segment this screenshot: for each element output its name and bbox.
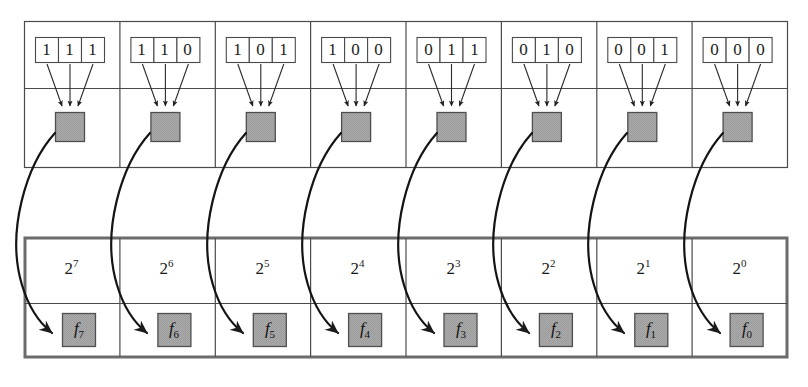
bottom-gray-nodes xyxy=(63,314,764,347)
figure-container: 1 1 1 1 1 0 1 0 1 1 0 0 0 1 1 0 1 0 0 0 … xyxy=(0,0,808,387)
top-cell-0 xyxy=(36,38,105,142)
diagram-artwork xyxy=(0,0,808,387)
gray-node xyxy=(532,113,561,142)
gray-node xyxy=(246,113,275,142)
top-cell-7 xyxy=(703,38,772,142)
gray-node xyxy=(342,113,371,142)
top-cell-2 xyxy=(226,38,295,142)
gray-node xyxy=(628,113,657,142)
top-cell-5 xyxy=(512,38,581,142)
top-cell-3 xyxy=(322,38,391,142)
gray-node xyxy=(151,113,180,142)
gray-node xyxy=(437,113,466,142)
gray-node xyxy=(723,113,752,142)
gray-node xyxy=(56,113,85,142)
top-cell-1 xyxy=(131,38,200,142)
top-cell-4 xyxy=(417,38,486,142)
top-cell-6 xyxy=(608,38,677,142)
bottom-row-grid xyxy=(25,238,788,357)
